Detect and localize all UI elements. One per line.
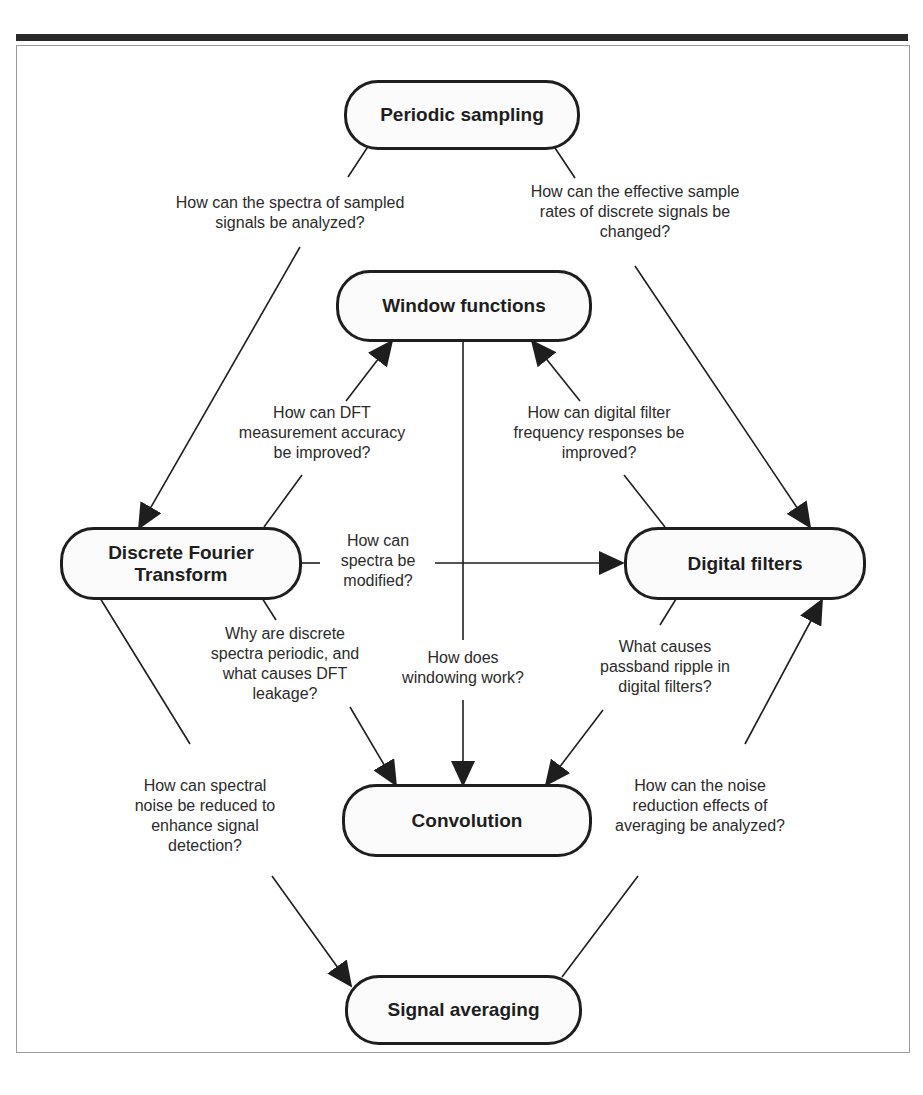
edge-filters-to-conv-b: [546, 710, 603, 785]
node-label: Window functions: [382, 295, 545, 317]
edge-dft-to-avg-b: [272, 876, 351, 986]
edge-dft-to-window-b: [346, 341, 392, 401]
node-label: Discrete Fourier Transform: [108, 542, 254, 586]
question-spectral-noise: How can spectral noise be reduced to enh…: [120, 776, 290, 856]
question-passband-ripple: What causes passband ripple in digital f…: [570, 637, 760, 697]
question-dft-accuracy: How can DFT measurement accuracy be impr…: [222, 403, 422, 463]
node-periodic-sampling: Periodic sampling: [344, 80, 580, 150]
edge-dft-to-conv-b: [350, 707, 396, 785]
question-spectra-sampled: How can the spectra of sampled signals b…: [140, 193, 440, 233]
node-label: Periodic sampling: [380, 104, 544, 126]
question-filter-response: How can digital filter frequency respons…: [494, 403, 704, 463]
edge-sampling-to-dft-a: [348, 145, 369, 177]
node-window-functions: Window functions: [336, 270, 592, 342]
edge-filters-to-conv-a: [660, 599, 676, 625]
edge-dft-to-window-a: [264, 475, 302, 527]
edge-dft-to-avg-a: [100, 598, 190, 744]
edge-avg-to-filters-a: [562, 876, 638, 977]
question-windowing: How does windowing work?: [395, 648, 531, 688]
node-digital-filters: Digital filters: [624, 527, 866, 600]
edge-sampling-to-filters-a: [555, 148, 575, 178]
question-spectra-modified: How can spectra be modified?: [320, 531, 436, 591]
node-label: Convolution: [412, 810, 523, 832]
node-label: Signal averaging: [387, 999, 539, 1021]
edge-sampling-to-filters-b: [635, 266, 810, 527]
node-label-line2: Transform: [108, 564, 254, 586]
question-sample-rates: How can the effective sample rates of di…: [490, 182, 780, 242]
question-periodic-leakage: Why are discrete spectra periodic, and w…: [195, 624, 375, 704]
node-dft: Discrete Fourier Transform: [60, 527, 302, 600]
edge-filters-to-window-a: [624, 475, 665, 527]
node-label-line1: Discrete Fourier: [108, 542, 254, 564]
node-convolution: Convolution: [342, 784, 592, 857]
edge-filters-to-window-b: [532, 341, 580, 401]
node-label: Digital filters: [687, 553, 802, 575]
node-signal-averaging: Signal averaging: [345, 975, 582, 1045]
edge-sampling-to-dft-b: [139, 247, 300, 528]
question-noise-reduction: How can the noise reduction effects of a…: [600, 776, 800, 836]
edge-dft-to-conv-a: [262, 598, 276, 620]
